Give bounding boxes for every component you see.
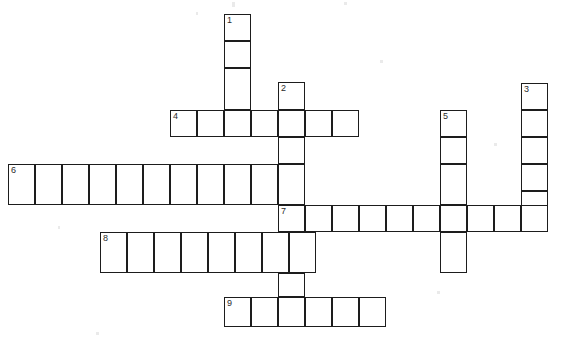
crossword-cell-numbered[interactable]: 7 [278,205,305,232]
crossword-cell[interactable] [332,297,359,327]
crossword-cell-numbered[interactable]: 2 [278,82,305,110]
crossword-cell[interactable] [332,110,359,137]
crossword-cell[interactable] [289,232,316,273]
crossword-cell[interactable] [278,297,305,327]
crossword-cell-numbered[interactable]: 4 [170,110,197,137]
crossword-cell[interactable] [494,205,521,232]
crossword-cell[interactable] [224,41,251,68]
crossword-cell[interactable] [251,110,278,137]
crossword-cell-numbered[interactable]: 5 [440,110,467,137]
crossword-cell[interactable] [467,205,494,232]
crossword-cell-numbered[interactable]: 8 [100,232,127,273]
crossword-cell[interactable] [278,137,305,164]
cell-number: 6 [11,165,16,176]
crossword-cell[interactable] [89,164,116,205]
cell-number: 3 [524,84,529,95]
crossword-cell[interactable] [170,164,197,205]
crossword-cell[interactable] [305,205,332,232]
crossword-cell[interactable] [197,164,224,205]
crossword-cell[interactable] [197,110,224,137]
crossword-cell[interactable] [143,164,170,205]
crossword-cell[interactable] [251,164,278,205]
cell-number: 1 [227,15,232,26]
crossword-cell[interactable] [440,137,467,164]
crossword-cell[interactable] [521,164,548,191]
crossword-cell[interactable] [251,297,278,327]
crossword-cell[interactable] [305,110,332,137]
cell-number: 7 [281,206,286,217]
cell-number: 9 [227,298,232,309]
cell-number: 2 [281,83,286,94]
crossword-cell[interactable] [278,273,305,297]
crossword-cell[interactable] [278,164,305,205]
crossword-cell[interactable] [62,164,89,205]
cell-number: 8 [103,233,108,244]
crossword-cell[interactable] [359,297,386,327]
crossword-cell[interactable] [359,205,386,232]
cell-number: 4 [173,111,178,122]
crossword-cell[interactable] [262,232,289,273]
crossword-cell-numbered[interactable]: 1 [224,14,251,41]
crossword-cell[interactable] [235,232,262,273]
crossword-cell[interactable] [224,110,251,137]
crossword-cell[interactable] [35,164,62,205]
crossword-cell[interactable] [127,232,154,273]
crossword-cell-numbered[interactable]: 6 [8,164,35,205]
crossword-cell[interactable] [521,110,548,137]
crossword-cell[interactable] [278,110,305,137]
crossword-puzzle: 123456789 [0,0,569,345]
crossword-cell[interactable] [386,205,413,232]
crossword-cell[interactable] [440,205,467,232]
crossword-cell[interactable] [208,232,235,273]
crossword-cell[interactable] [224,68,251,110]
crossword-cell[interactable] [116,164,143,205]
cell-number: 5 [443,111,448,122]
crossword-cell[interactable] [413,205,440,232]
crossword-cell[interactable] [224,164,251,205]
crossword-cell[interactable] [521,205,548,232]
crossword-cell-numbered[interactable]: 3 [521,83,548,110]
crossword-cell[interactable] [521,137,548,164]
crossword-cell-numbered[interactable]: 9 [224,297,251,327]
crossword-cell[interactable] [305,297,332,327]
crossword-cell[interactable] [181,232,208,273]
crossword-cell[interactable] [332,205,359,232]
crossword-grid: 123456789 [0,0,569,345]
crossword-cell[interactable] [440,164,467,205]
crossword-cell[interactable] [154,232,181,273]
crossword-cell[interactable] [440,232,467,273]
